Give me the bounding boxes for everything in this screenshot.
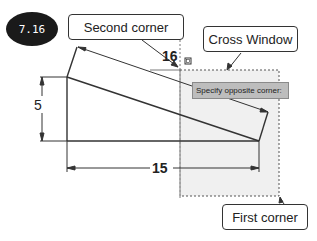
figure-number-badge: 7.16 — [6, 12, 58, 46]
dim-5-text: 5 — [34, 97, 42, 113]
dim-15-text: 15 — [152, 160, 168, 176]
pickbox-icon — [185, 58, 191, 64]
dimension-5 — [40, 77, 67, 141]
command-tooltip: Specify opposite corner: — [192, 82, 289, 99]
dim-16-text: 16 — [162, 48, 178, 64]
callout-cross-window: Cross Window — [203, 26, 298, 52]
callout-first-corner: First corner — [222, 204, 308, 230]
callout-second-corner: Second corner — [68, 14, 184, 40]
